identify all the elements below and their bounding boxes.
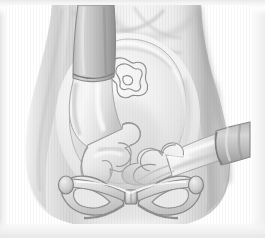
illustration-viewport: Grayscale drawing of a pregnant abdomen … <box>0 0 265 238</box>
medical-illustration-svg <box>6 5 251 224</box>
illustration-card: Grayscale drawing of a pregnant abdomen … <box>6 5 251 224</box>
